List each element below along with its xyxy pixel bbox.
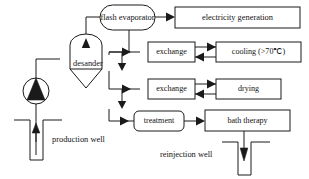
node-label-drying: drying [238,84,259,93]
flow-diagram-canvas: flash evaporator electricity generation … [0,0,309,179]
connector-flash-to-trunk [109,30,129,52]
node-exchange-2[interactable]: exchange [148,79,195,99]
node-electricity-generation[interactable]: electricity generation [175,7,300,28]
node-label-flash-evaporator: flash evaporator [100,13,154,22]
connector-trunk-to-exchange-1 [109,48,140,57]
process-flow-diagram: flash evaporator electricity generation … [0,0,309,179]
node-label-treatment: treatment [144,116,175,125]
label-production-well: production well [52,135,105,144]
pump-symbol [23,78,49,104]
node-drying[interactable]: drying [216,79,281,99]
connector-trunk-segment-2 [109,71,140,109]
connector-flash-to-electricity [155,13,175,22]
node-flash-evaporator[interactable]: flash evaporator [100,5,155,30]
label-desander: desander [73,59,103,68]
node-label-bath-therapy: bath therapy [227,116,268,125]
node-treatment[interactable]: treatment [134,111,184,131]
reinjection-well-symbol [222,142,270,175]
node-bath-therapy[interactable]: bath therapy [205,110,290,131]
node-label-cooling: cooling (>70℃) [232,47,286,56]
connector-exchange2-drying-loop [195,80,216,99]
label-reinjection-well: reinjection well [160,150,213,159]
node-cooling[interactable]: cooling (>70℃) [216,42,301,62]
node-label-exchange-1: exchange [156,47,187,56]
connector-exchange1-cooling-loop [195,43,216,62]
connector-treatment-to-bath [184,117,205,126]
node-exchange-1[interactable]: exchange [148,42,195,62]
node-label-electricity-generation: electricity generation [202,13,274,22]
node-label-exchange-2: exchange [156,84,187,93]
connector-trunk-to-treatment [109,109,134,125]
